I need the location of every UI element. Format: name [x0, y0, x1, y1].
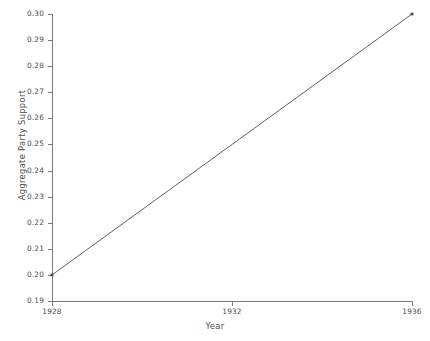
x-axis-label: Year	[0, 321, 430, 331]
chart-figure: 0.190.200.210.220.230.240.250.260.270.28…	[0, 0, 430, 341]
chart-plot-area	[0, 0, 430, 341]
y-axis-label: Aggregate Party Support	[17, 80, 27, 210]
data-series-group	[51, 13, 414, 277]
data-line	[52, 14, 412, 275]
data-point-marker	[51, 274, 54, 277]
data-point-marker	[411, 13, 414, 16]
